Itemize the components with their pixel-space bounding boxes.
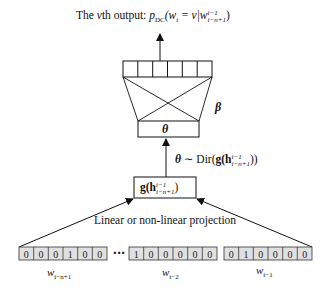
svg-text:0: 0	[163, 249, 168, 260]
svg-text:0: 0	[207, 249, 212, 260]
svg-text:0: 0	[288, 249, 293, 260]
label-w-i-2: wi−2	[162, 266, 179, 278]
label-w-i-n-1: wi−n+1	[47, 266, 71, 278]
svg-text:1: 1	[68, 249, 73, 260]
vector-w-i-n-1: 0 0 0 1 0 0	[19, 247, 107, 260]
output-layer	[123, 61, 212, 77]
svg-text:0: 0	[97, 249, 102, 260]
label-w-i-1: wi−1	[256, 264, 273, 276]
vector-w-i-1: 0 1 0 0 0 0	[224, 247, 312, 260]
projection-label: Linear or non-linear projection	[94, 214, 236, 226]
title-suffix: th output:	[102, 9, 149, 21]
vector-w-i-2: 1 0 0 0 0 0	[129, 247, 217, 260]
theta-dirichlet-label: θ ∼ Dir(g(hi−1i−n+1))	[175, 152, 258, 168]
svg-text:0: 0	[302, 249, 307, 260]
svg-text:0: 0	[193, 249, 198, 260]
beta-connections	[123, 77, 212, 121]
svg-text:0: 0	[273, 249, 278, 260]
diagram-canvas: 0 0 0 1 0 0 ··· 1 0 0 0 0 0 0 1 0 0 0 0	[0, 0, 331, 294]
svg-text:0: 0	[53, 249, 58, 260]
g-box-label: g(hi−1i−n+1)	[140, 181, 178, 196]
ellipsis: ···	[113, 246, 126, 260]
output-formula: pDC(wi = v|wi−1i−n+1)	[149, 9, 230, 21]
svg-text:1: 1	[244, 249, 249, 260]
beta-label: β	[215, 100, 221, 115]
svg-text:0: 0	[229, 249, 234, 260]
theta-box-label: θ	[162, 122, 168, 137]
svg-text:1: 1	[134, 249, 139, 260]
svg-text:0: 0	[258, 249, 263, 260]
svg-text:0: 0	[178, 249, 183, 260]
svg-text:0: 0	[149, 249, 154, 260]
svg-text:0: 0	[83, 249, 88, 260]
theta-box	[138, 121, 199, 137]
output-title: The vth output: pDC(wi = v|wi−1i−n+1)	[76, 9, 230, 24]
svg-text:0: 0	[24, 249, 29, 260]
title-prefix: The	[76, 9, 97, 21]
svg-text:0: 0	[39, 249, 44, 260]
